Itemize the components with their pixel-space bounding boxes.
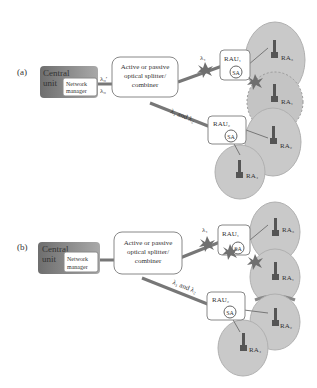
splitter-label-1: Active or passive: [121, 63, 170, 71]
ra3-label: RA₃: [281, 54, 294, 62]
link1-label: λ₁: [200, 54, 206, 62]
splitter-label-2: optical splitter/: [127, 248, 169, 256]
rau1-label: RAU₁: [224, 55, 241, 63]
panel-b: Central unit Network manager Active or p…: [17, 202, 300, 376]
panel-a-label: (a): [17, 67, 27, 77]
network-manager-label-1: Network: [66, 81, 87, 87]
diagram: Central unit Network manager λ₀′ λ₀ Acti…: [0, 0, 317, 388]
central-unit-label-2: unit: [42, 254, 57, 264]
ra4-label: RA₄: [246, 172, 259, 180]
rau2-sa-label: SA: [226, 310, 234, 316]
ra2-label: RA₂: [280, 142, 293, 150]
splitter-label-2: optical splitter/: [124, 72, 166, 80]
rau2-label: RAU₂: [213, 120, 231, 128]
rau2-sa-label: SA: [227, 134, 235, 140]
central-unit-label-1: Central: [43, 68, 70, 78]
network-manager-label-2: manager: [67, 264, 88, 270]
ra1-label: RA₁: [282, 274, 294, 282]
link1-label: λ₁: [202, 226, 208, 234]
panel-b-label: (b): [17, 242, 28, 252]
network-manager-label-2: manager: [66, 88, 87, 94]
central-unit-label-2: unit: [43, 78, 58, 88]
lambda-bottom-label: λ₀: [100, 87, 106, 95]
network-manager-label-1: Network: [67, 256, 88, 262]
lambda-top-label: λ₀′: [100, 75, 108, 83]
link2-label: λ₁ and λ₂: [171, 278, 198, 295]
splitter-label-1: Active or passive: [124, 239, 173, 247]
panel-a: Central unit Network manager λ₀′ λ₀ Acti…: [17, 22, 305, 199]
ra1-label: RA₁: [281, 98, 293, 106]
rau1-label: RAU₁: [222, 230, 239, 238]
rau2-label: RAU₂: [212, 296, 230, 304]
splitter-label-3: combiner: [132, 81, 159, 89]
ra4-label: RA₄: [249, 346, 262, 354]
splitter-label-3: combiner: [135, 257, 162, 265]
link2-label: λ₁ and λ₂: [169, 107, 196, 124]
rau1-sa-label: SA: [232, 70, 240, 76]
ra2-label: RA₂: [280, 322, 293, 330]
ra3-label: RA₃: [282, 226, 295, 234]
